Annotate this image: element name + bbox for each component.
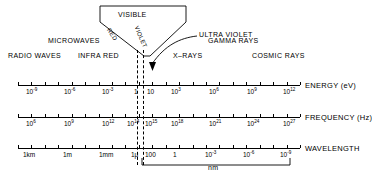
axis-tick-label: 1m <box>63 151 72 158</box>
axis-tick-label: 1012 <box>102 120 114 127</box>
axis-tick <box>72 114 73 117</box>
ultra-violet-callout-curve <box>152 36 197 64</box>
axis-title-energy: ENERGY (eV) <box>305 81 356 90</box>
axis-tick <box>233 145 234 148</box>
axis-tick <box>85 82 86 85</box>
axis-tick-label: 1mm <box>99 151 113 158</box>
axis-tick-label: 1021 <box>209 120 221 127</box>
axis-title-frequency: FREQUENCY (Hz) <box>305 113 372 122</box>
axis-tick-label: 1 <box>173 151 177 158</box>
axis-tick <box>193 114 194 117</box>
axis-tick <box>193 145 194 148</box>
axis-tick-label: 1027 <box>283 120 295 127</box>
axis-tick <box>233 82 234 85</box>
axis-tick <box>273 82 274 85</box>
band-infra-red: INFRA RED <box>78 52 119 59</box>
visible-band-dashed-line <box>137 50 138 165</box>
axis-tick <box>166 114 167 117</box>
ultra-violet-arrowhead <box>149 62 156 71</box>
axis-tick-label: 10-3 <box>205 151 216 158</box>
axis-tick <box>152 114 153 117</box>
nm-bracket-label: nm <box>208 164 218 171</box>
axis-tick <box>58 114 59 117</box>
axis-tick <box>58 82 59 85</box>
axis-tick <box>206 114 207 117</box>
axis-tick <box>18 145 19 148</box>
axis-tick <box>45 114 46 117</box>
axis-tick <box>219 114 220 117</box>
axis-tick <box>179 145 180 148</box>
axis-tick <box>287 114 288 117</box>
axis-tick <box>125 145 126 148</box>
axis-tick <box>139 114 140 117</box>
axis-tick <box>85 114 86 117</box>
axis-tick <box>287 82 288 85</box>
axis-tick-label: 10-9 <box>280 151 291 158</box>
axis-tick-label: 10-3 <box>102 88 113 95</box>
axis-tick <box>18 82 19 85</box>
axis-tick <box>166 145 167 148</box>
axis-tick-label: 109 <box>64 120 74 127</box>
axis-tick <box>112 145 113 148</box>
axis-tick <box>260 82 261 85</box>
axis-tick <box>45 145 46 148</box>
violet-label: VIOLET <box>133 25 148 49</box>
axis-tick <box>246 82 247 85</box>
axis-tick <box>99 114 100 117</box>
axis-tick-label: 10-6 <box>243 151 254 158</box>
axis-tick-label: 100 <box>145 151 156 158</box>
axis-tick-label: 10-9 <box>26 88 37 95</box>
axis-tick <box>72 82 73 85</box>
axis-tick-label: 1024 <box>247 120 259 127</box>
axis-tick <box>219 82 220 85</box>
axis-tick <box>166 82 167 85</box>
axis-tick <box>72 145 73 148</box>
axis-tick <box>206 145 207 148</box>
axis-tick <box>139 145 140 148</box>
axis-tick <box>233 114 234 117</box>
axis-tick-label: 10 <box>147 88 154 95</box>
axis-tick-label: 1015 <box>145 120 157 127</box>
axis-tick-label: 109 <box>247 88 257 95</box>
axis-tick <box>112 114 113 117</box>
axis-tick <box>112 82 113 85</box>
axis-tick <box>219 145 220 148</box>
axis-tick <box>31 114 32 117</box>
axis-tick-label: 10-6 <box>64 88 75 95</box>
axis-tick <box>206 82 207 85</box>
axis-tick <box>273 114 274 117</box>
band-radio-waves: RADIO WAVES <box>8 52 61 59</box>
axis-tick <box>300 145 301 148</box>
axis-tick <box>152 145 153 148</box>
axis-tick <box>125 82 126 85</box>
axis-tick <box>179 82 180 85</box>
axis-tick <box>260 145 261 148</box>
axis-tick-label: 1km <box>23 151 35 158</box>
axis-line-wavelength <box>18 148 300 149</box>
axis-tick <box>300 114 301 117</box>
axis-tick <box>99 82 100 85</box>
axis-title-wavelength: WAVELENGTH <box>305 144 360 153</box>
axis-tick <box>18 114 19 117</box>
band-gamma-rays: GAMMA RAYS <box>208 37 259 44</box>
axis-tick-label: 1018 <box>171 120 183 127</box>
axis-tick <box>179 114 180 117</box>
axis-line-energy <box>18 85 300 86</box>
band-microwaves: MICROWAVES <box>48 37 100 44</box>
axis-tick-label: 103 <box>171 88 181 95</box>
axis-tick <box>260 114 261 117</box>
visible-label: VISIBLE <box>118 11 147 18</box>
axis-tick <box>246 145 247 148</box>
axis-tick <box>300 82 301 85</box>
axis-tick <box>45 82 46 85</box>
band-x-rays: X–RAYS <box>173 52 203 59</box>
axis-tick <box>31 145 32 148</box>
axis-tick-label: 106 <box>209 88 219 95</box>
axis-tick-label: 106 <box>26 120 36 127</box>
axis-tick <box>273 145 274 148</box>
axis-tick <box>125 114 126 117</box>
axis-tick <box>152 82 153 85</box>
band-cosmic-rays: COSMIC RAYS <box>252 52 305 59</box>
axis-tick <box>99 145 100 148</box>
